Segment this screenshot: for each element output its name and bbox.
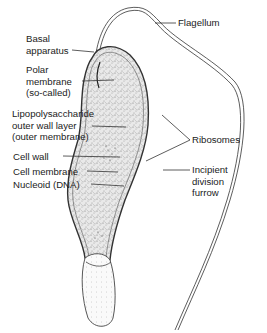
label-flagellum: Flagellum [178,17,220,29]
label-line: outer wall layer [12,120,94,132]
label-line: membrane [26,76,72,88]
label-line: division [192,176,228,188]
label-line: Basal [26,33,69,45]
label-line: (outer membrane) [12,131,94,143]
label-line: furrow [192,187,228,199]
label-polar-membrane: Polar membrane (so-called) [26,64,72,99]
label-lps-outer-wall: Lipopolysaccharide outer wall layer (out… [12,108,94,143]
label-ribosomes: Ribosomes [192,134,240,146]
cell-body [68,47,149,327]
label-division-furrow: Incipient division furrow [192,164,228,199]
label-line: apparatus [26,45,69,57]
label-line: (so-called) [26,87,72,99]
label-line: Polar [26,64,72,76]
label-nucleoid: Nucleoid (DNA) [13,179,80,191]
label-basal-apparatus: Basal apparatus [26,33,69,56]
label-line: Incipient [192,164,228,176]
label-line: Lipopolysaccharide [12,108,94,120]
label-cell-wall: Cell wall [13,151,49,163]
label-cell-membrane: Cell membrane [13,166,78,178]
